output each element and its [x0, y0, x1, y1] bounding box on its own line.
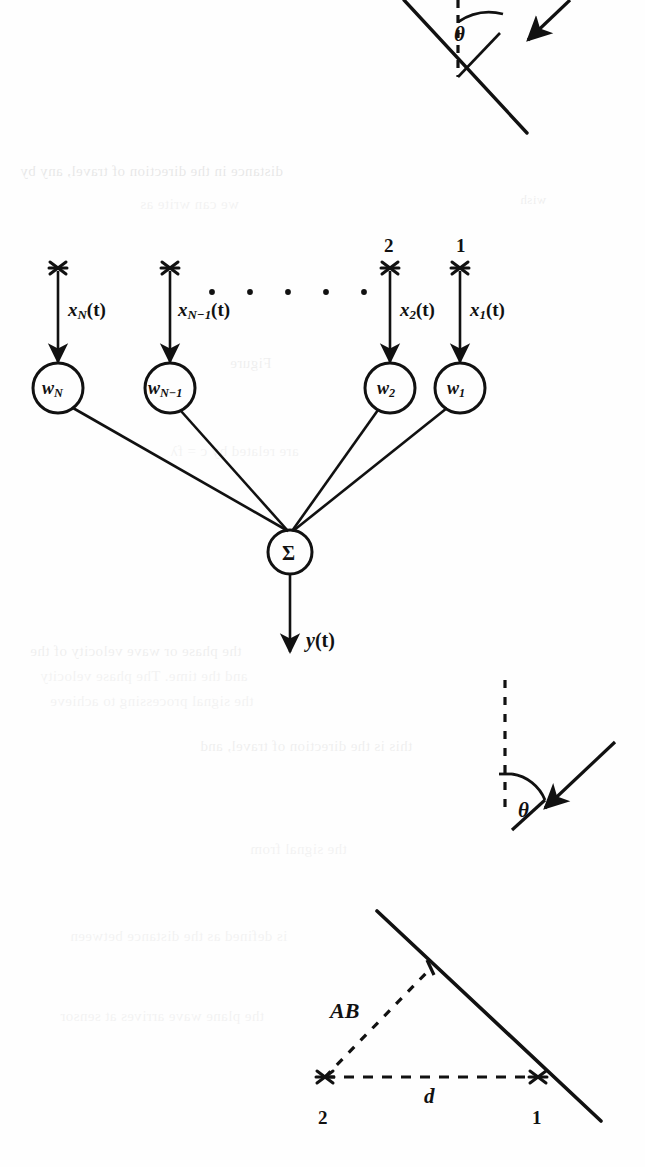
sensor-marker-2: [381, 262, 399, 274]
bleed-text-line-10: the signal from: [250, 838, 347, 861]
angle-label-theta-middle: θ: [518, 800, 529, 821]
input-signal-arg-N: (t): [87, 299, 106, 320]
input-signal-arg-1: (t): [486, 299, 505, 320]
weight-subscript-1: 1: [459, 386, 465, 400]
weight-to-sum-line-2: [292, 410, 378, 531]
bleed-text-line-6: the phase or wave velocity of the: [30, 640, 241, 663]
input-signal-label-1: x1(t): [470, 300, 505, 322]
weight-to-sum-line-N-1: [181, 411, 288, 531]
incoming-ray-middle: [545, 742, 615, 808]
weight-subscript-N: N: [54, 386, 63, 400]
bleed-text-line-8: the signal processing to achieve: [50, 690, 254, 713]
bleed-text-line-9: this is the direction of travel, and: [200, 735, 412, 758]
weight-label-N: wN: [42, 379, 63, 399]
input-signal-symbol-2: x: [400, 299, 410, 320]
input-signal-arg-N-1: (t): [211, 299, 230, 320]
ellipsis-dot-1: [209, 289, 215, 295]
incoming-ray-top: [528, 0, 570, 40]
weight-subscript-2: 2: [389, 386, 395, 400]
hypotenuse-label-AB: AB: [330, 1000, 359, 1022]
input-signal-symbol-1: x: [470, 299, 480, 320]
perpendicular-tick-bottom: [427, 960, 434, 975]
weight-subscript-N-1: N−1: [160, 386, 182, 400]
wavefront-line-top: [404, 0, 527, 133]
geometry-top-group: [404, 0, 570, 133]
angle-label-theta-top: θ: [454, 24, 465, 45]
bleed-text-line-5: are related by c = fλ: [170, 440, 299, 463]
bleed-text-line-11: is defined as the distance between: [70, 925, 287, 948]
wavefront-line-bottom: [377, 911, 601, 1121]
weight-symbol-1: w: [447, 378, 459, 398]
sensor-number-1: 1: [456, 236, 466, 255]
point-label-2: 2: [318, 1108, 328, 1127]
weight-to-sum-line-N: [73, 408, 288, 531]
input-signal-symbol-N-1: x: [178, 299, 188, 320]
weight-symbol-N-1: w: [148, 378, 160, 398]
bleed-text-line-12: the plane wave arrives at sensor: [60, 1005, 264, 1028]
bleed-text-line-7: and the time. The phase velocity: [40, 665, 247, 688]
weight-to-sum-line-1: [293, 408, 447, 531]
sensor-marker-1: [451, 262, 469, 274]
point-marker-1: [529, 1071, 547, 1083]
baseline-label-d: d: [424, 1086, 435, 1107]
input-signal-subscript-N: N: [78, 307, 87, 322]
ellipsis-dot-3: [285, 289, 291, 295]
geometry-middle-group: [499, 680, 615, 830]
summation-node-symbol: Σ: [282, 543, 295, 563]
output-signal-label: y(t): [306, 630, 335, 650]
input-signal-label-N: xN(t): [68, 300, 106, 322]
bleed-text-line-1: distance in the direction of travel, any…: [20, 160, 283, 183]
angle-arc-curve-top: [458, 12, 503, 22]
weight-symbol-2: w: [377, 378, 389, 398]
sensor-marker-N-1: [161, 262, 179, 274]
ellipsis-dot-2: [247, 289, 253, 295]
bleed-text-line-4: Figure: [230, 352, 272, 375]
input-signal-subscript-N-1: N−1: [188, 307, 212, 322]
input-signal-label-N-1: xN−1(t): [178, 300, 230, 322]
sensor-number-2: 2: [384, 236, 394, 255]
weight-label-1: w1: [447, 379, 465, 399]
ellipsis-dot-5: [361, 289, 367, 295]
output-signal-symbol: y: [306, 629, 315, 651]
sensor-marker-N: [49, 262, 67, 274]
scanned-page: distance in the direction of travel, any…: [0, 0, 645, 1167]
weight-label-2: w2: [377, 379, 395, 399]
input-signal-symbol-N: x: [68, 299, 78, 320]
point-marker-2: [316, 1071, 334, 1083]
output-signal-arg: (t): [315, 629, 335, 651]
weight-symbol-N: w: [42, 378, 54, 398]
input-signal-arg-2: (t): [416, 299, 435, 320]
input-signal-label-2: x2(t): [400, 300, 435, 322]
ellipsis-dot-4: [323, 289, 329, 295]
point-label-1: 1: [532, 1108, 542, 1127]
weight-label-N-1: wN−1: [148, 379, 182, 399]
angle-arc-middle: [512, 774, 545, 800]
bleed-text-line-2: wish: [520, 190, 546, 210]
bleed-text-line-3: we can write as: [140, 193, 239, 216]
